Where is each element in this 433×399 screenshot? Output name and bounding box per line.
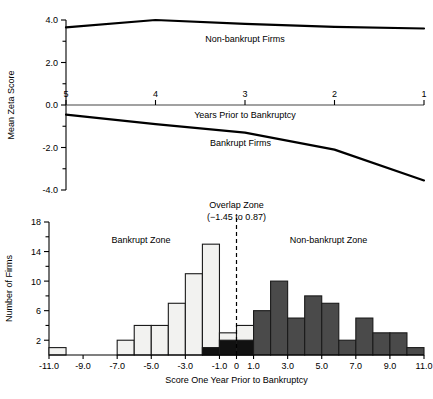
hist-x-tick-label: -11.0 bbox=[39, 361, 59, 371]
line-chart: -4.0-2.00.02.04.054321Mean Zeta ScoreYea… bbox=[6, 15, 427, 195]
histogram-chart: 26101418Number of Firms-11.0-9.0-7.0-5.0… bbox=[4, 200, 432, 385]
y-tick-label: -4.0 bbox=[42, 185, 58, 195]
hist-bar-non-bankrupt bbox=[305, 296, 322, 355]
hist-bar-non-bankrupt bbox=[202, 348, 219, 355]
hist-bar-non-bankrupt bbox=[356, 318, 373, 355]
hist-x-tick-label: -3.0 bbox=[178, 361, 194, 371]
hist-x-tick-label: 9.0 bbox=[384, 361, 397, 371]
series-label-bankrupt: Bankrupt Firms bbox=[210, 138, 272, 148]
hist-y-tick-label: 10 bbox=[31, 277, 41, 287]
hist-x-tick-label: 5.0 bbox=[315, 361, 328, 371]
series-label-non-bankrupt: Non-bankrupt Firms bbox=[205, 34, 285, 44]
hist-x-axis-title: Score One Year Prior to Bankruptcy bbox=[165, 375, 308, 385]
hist-bar-non-bankrupt bbox=[254, 311, 271, 355]
hist-bar-non-bankrupt bbox=[271, 281, 288, 355]
hist-x-tick-label: 3.0 bbox=[281, 361, 294, 371]
bars-bankrupt-group bbox=[49, 244, 254, 355]
x-tick-label: 3 bbox=[242, 89, 247, 99]
x-tick-label: 1 bbox=[421, 89, 426, 99]
figure-canvas: -4.0-2.00.02.04.054321Mean Zeta ScoreYea… bbox=[0, 0, 433, 399]
hist-x-tick-label: 0 bbox=[234, 361, 239, 371]
y-tick-label: 2.0 bbox=[45, 58, 58, 68]
bars-non-bankrupt-group bbox=[202, 281, 424, 355]
hist-y-tick-label: 14 bbox=[31, 247, 41, 257]
figure-svg: -4.0-2.00.02.04.054321Mean Zeta ScoreYea… bbox=[0, 0, 433, 399]
y-tick-label: 4.0 bbox=[45, 15, 58, 25]
hist-y-tick-label: 2 bbox=[36, 336, 41, 346]
series-line-non-bankrupt bbox=[66, 20, 424, 29]
hist-bar-non-bankrupt bbox=[373, 333, 390, 355]
hist-bar-bankrupt bbox=[168, 303, 185, 355]
bankrupt-zone-label: Bankrupt Zone bbox=[112, 235, 171, 245]
hist-y-tick-label: 6 bbox=[36, 306, 41, 316]
hist-x-tick-label: -9.0 bbox=[75, 361, 91, 371]
hist-x-tick-label: 11.0 bbox=[416, 361, 433, 371]
hist-bar-non-bankrupt bbox=[339, 340, 356, 355]
hist-bar-bankrupt bbox=[49, 348, 66, 355]
hist-bar-non-bankrupt bbox=[237, 340, 254, 355]
nonbankrupt-zone-label: Non-bankrupt Zone bbox=[290, 235, 368, 245]
hist-bar-bankrupt bbox=[202, 244, 219, 355]
hist-bar-non-bankrupt bbox=[288, 318, 305, 355]
hist-bar-bankrupt bbox=[117, 340, 134, 355]
hist-bar-bankrupt bbox=[134, 325, 151, 355]
x-tick-label: 4 bbox=[153, 89, 158, 99]
y-tick-label: 0.0 bbox=[45, 100, 58, 110]
hist-y-tick-label: 18 bbox=[31, 217, 41, 227]
hist-bar-non-bankrupt bbox=[407, 348, 424, 355]
hist-bar-bankrupt bbox=[151, 325, 168, 355]
hist-x-tick-label: -5.0 bbox=[144, 361, 160, 371]
hist-bar-non-bankrupt bbox=[390, 333, 407, 355]
y-tick-label: -2.0 bbox=[42, 143, 58, 153]
x-tick-label: 5 bbox=[63, 89, 68, 99]
hist-x-tick-label: -1.0 bbox=[212, 361, 228, 371]
hist-bar-non-bankrupt bbox=[322, 303, 339, 355]
line-chart-y-axis-title: Mean Zeta Score bbox=[6, 70, 16, 139]
hist-x-tick-label: 1.0 bbox=[247, 361, 260, 371]
hist-bar-non-bankrupt bbox=[219, 340, 236, 355]
hist-x-tick-label: -7.0 bbox=[109, 361, 125, 371]
line-chart-x-axis-title: Years Prior to Bankruptcy bbox=[194, 110, 296, 120]
overlap-zone-label-line2: (−1.45 to 0.87) bbox=[207, 212, 266, 222]
hist-y-axis-title: Number of Firms bbox=[4, 255, 14, 323]
hist-bar-bankrupt bbox=[185, 274, 202, 355]
x-tick-label: 2 bbox=[332, 89, 337, 99]
overlap-zone-label-line1: Overlap Zone bbox=[209, 200, 264, 210]
hist-x-tick-label: 7.0 bbox=[350, 361, 363, 371]
figure-root: -4.0-2.00.02.04.054321Mean Zeta ScoreYea… bbox=[0, 0, 433, 399]
